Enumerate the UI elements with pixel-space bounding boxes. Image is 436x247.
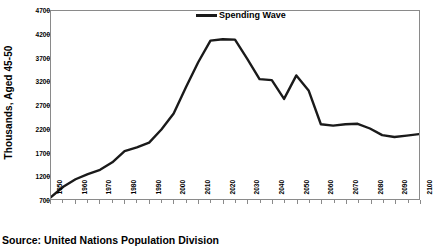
x-tick-label: 2020 [227, 180, 239, 206]
y-tick-label: 3700 [4, 54, 50, 61]
x-tick-label: 2100 [424, 180, 436, 206]
plot-area [50, 10, 420, 200]
x-tick-mark [420, 200, 421, 204]
x-tick-label: 2070 [350, 180, 362, 206]
x-tick-mark [297, 200, 298, 204]
series-spending-wave [51, 11, 419, 199]
x-tick-mark [395, 200, 396, 204]
x-tick-label: 2000 [177, 180, 189, 206]
x-tick-mark [149, 200, 150, 204]
y-axis-ticks: 47004200370032002700220017001200700 [0, 10, 50, 200]
x-tick-mark [346, 200, 347, 204]
y-tick-label: 4200 [4, 30, 50, 37]
x-tick-mark [75, 200, 76, 204]
y-tick-label: 4700 [4, 7, 50, 14]
chart-legend: Spending Wave [196, 8, 286, 22]
x-tick-label: 2010 [202, 180, 214, 206]
x-tick-label: 1950 [54, 180, 66, 206]
x-tick-label: 1970 [103, 180, 115, 206]
x-tick-mark [124, 200, 125, 204]
x-tick-label: 1990 [153, 180, 165, 206]
x-tick-mark [99, 200, 100, 204]
x-tick-mark [247, 200, 248, 204]
x-tick-label: 2060 [325, 180, 337, 206]
x-tick-mark [50, 200, 51, 204]
legend-line-marker [196, 14, 217, 17]
x-tick-label: 2040 [276, 180, 288, 206]
source-caption: Source: United Nations Population Divisi… [2, 234, 219, 247]
x-tick-label: 2090 [399, 180, 411, 206]
x-tick-mark [223, 200, 224, 204]
y-tick-label: 2700 [4, 102, 50, 109]
x-tick-label: 2050 [301, 180, 313, 206]
legend-item-label: Spending Wave [219, 10, 286, 21]
spending-wave-line [51, 39, 419, 197]
x-tick-mark [371, 200, 372, 204]
x-tick-label: 1960 [79, 180, 91, 206]
y-tick-label: 2200 [4, 125, 50, 132]
x-tick-label: 1980 [128, 180, 140, 206]
y-tick-label: 1700 [4, 149, 50, 156]
y-tick-label: 700 [4, 197, 50, 204]
x-tick-mark [198, 200, 199, 204]
x-tick-label: 2030 [251, 180, 263, 206]
x-tick-label: 2080 [375, 180, 387, 206]
x-tick-mark [321, 200, 322, 204]
y-tick-label: 3200 [4, 78, 50, 85]
x-tick-mark [272, 200, 273, 204]
x-tick-mark [173, 200, 174, 204]
y-tick-label: 1200 [4, 173, 50, 180]
